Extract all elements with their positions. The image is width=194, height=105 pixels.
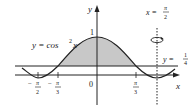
y-axis-label: y xyxy=(87,4,92,14)
svg-text:−: − xyxy=(48,80,52,88)
axis-of-rotation-label: x = π 2 xyxy=(145,5,169,20)
svg-text:2: 2 xyxy=(36,89,39,95)
y-axis-arrow-icon xyxy=(95,5,100,12)
x-axis-label: x xyxy=(175,81,180,91)
svg-text:π: π xyxy=(36,80,40,86)
svg-text:π: π xyxy=(164,5,168,11)
tick-label-neg-pi-3: − π 3 xyxy=(48,80,61,95)
svg-text:4: 4 xyxy=(184,60,187,66)
svg-text:π: π xyxy=(134,80,138,86)
svg-text:2: 2 xyxy=(164,14,167,20)
svg-text:2: 2 xyxy=(69,38,72,44)
x-axis-arrow-icon xyxy=(173,73,180,78)
line-equation-label: y = 1 4 xyxy=(162,52,188,66)
svg-text:π: π xyxy=(56,80,60,86)
tick-label-neg-pi-2: − π 2 xyxy=(28,80,41,95)
svg-text:x: x xyxy=(72,40,77,50)
origin-label: 0 xyxy=(89,80,93,89)
y-tick-one-label: 1 xyxy=(90,28,94,37)
rotation-arrow-icon xyxy=(151,37,164,43)
tick-label-pi-3: π 3 xyxy=(133,80,139,95)
diagram-canvas: y x 1 0 y = cos 2 x y = 1 4 x = π 2 − π … xyxy=(0,0,194,105)
svg-text:y = cos: y = cos xyxy=(31,40,59,50)
svg-text:1: 1 xyxy=(184,52,187,58)
svg-text:3: 3 xyxy=(56,89,59,95)
curve-equation-label: y = cos 2 x xyxy=(31,38,77,50)
svg-text:3: 3 xyxy=(134,89,137,95)
svg-text:x =: x = xyxy=(145,8,157,17)
svg-text:−: − xyxy=(28,80,32,88)
svg-text:y =: y = xyxy=(162,55,174,64)
